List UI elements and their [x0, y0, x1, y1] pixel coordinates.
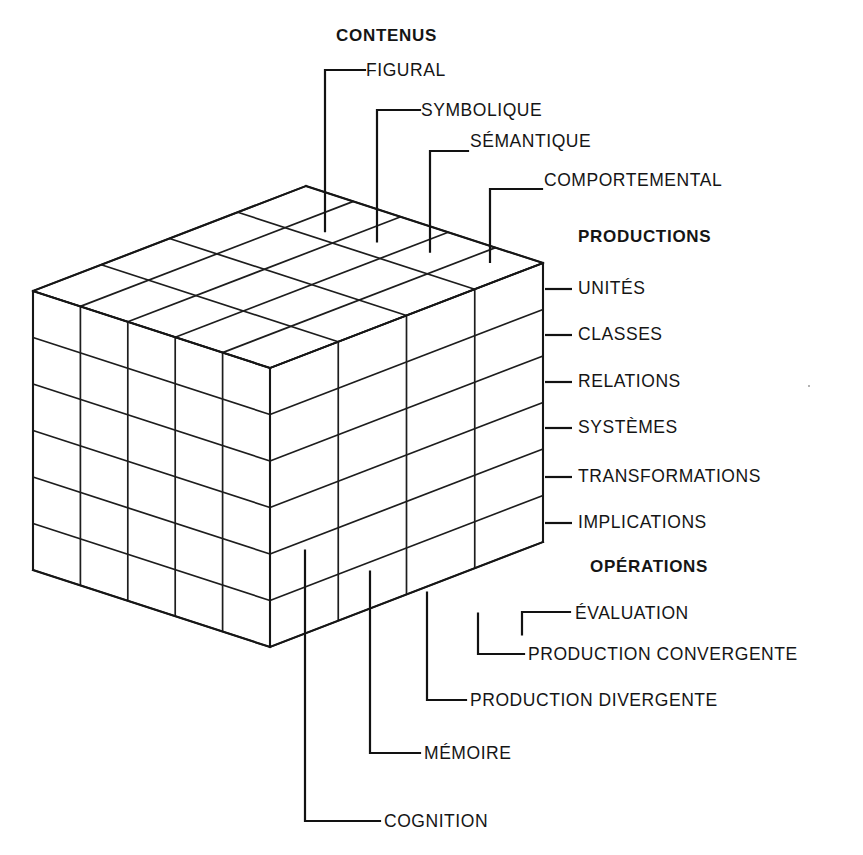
productions-item-implications: IMPLICATIONS — [578, 514, 707, 532]
operations-axis-header: OPÉRATIONS — [590, 558, 708, 575]
contents-axis-header: CONTENUS — [336, 27, 437, 44]
operations-item-evaluation: ÉVALUATION — [575, 605, 689, 623]
contents-item-comportemental: COMPORTEMENTAL — [544, 172, 722, 190]
productions-item-transformations: TRANSFORMATIONS — [578, 468, 761, 486]
contents-item-symbolique: SYMBOLIQUE — [421, 102, 542, 120]
contents-item-figural: FIGURAL — [366, 62, 446, 80]
paper-speck — [808, 385, 810, 387]
operations-item-production-convergente: PRODUCTION CONVERGENTE — [528, 646, 798, 664]
productions-item-classes: CLASSES — [578, 326, 663, 344]
cube-illustration — [0, 0, 863, 855]
contents-item-semantique: SÉMANTIQUE — [470, 133, 591, 151]
operations-item-cognition: COGNITION — [384, 813, 488, 831]
soi-cube-diagram: CONTENUS FIGURAL SYMBOLIQUE SÉMANTIQUE C… — [0, 0, 863, 855]
operations-item-production-divergente: PRODUCTION DIVERGENTE — [470, 692, 718, 710]
productions-axis-header: PRODUCTIONS — [578, 228, 711, 245]
productions-item-relations: RELATIONS — [578, 373, 681, 391]
cube-geometry — [33, 186, 543, 647]
productions-item-unites: UNITÉS — [578, 280, 645, 298]
productions-item-systemes: SYSTÈMES — [578, 419, 678, 437]
operations-item-memoire: MÉMOIRE — [424, 745, 511, 763]
